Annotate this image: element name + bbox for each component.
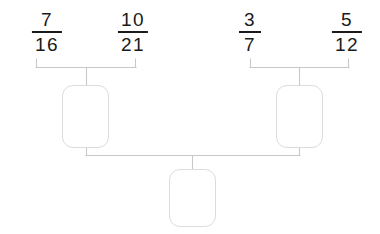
fraction-numerator: 10	[118, 10, 148, 31]
fraction-numerator: 5	[338, 10, 356, 31]
answer-box-left[interactable]	[62, 85, 109, 148]
fraction-5-12: 5 12	[332, 10, 362, 54]
fraction-denominator: 21	[118, 33, 148, 54]
answer-box-right[interactable]	[276, 85, 323, 148]
fraction-denominator: 16	[32, 33, 62, 54]
fraction-3-7: 3 7	[239, 10, 261, 54]
fraction-tree-diagram: 7 16 10 21 3 7 5 12	[0, 0, 380, 234]
answer-box-bottom[interactable]	[169, 169, 216, 227]
fraction-10-21: 10 21	[118, 10, 148, 54]
fraction-numerator: 3	[241, 10, 259, 31]
fraction-denominator: 12	[332, 33, 362, 54]
fraction-7-16: 7 16	[32, 10, 62, 54]
fraction-numerator: 7	[38, 10, 56, 31]
fraction-denominator: 7	[241, 33, 259, 54]
